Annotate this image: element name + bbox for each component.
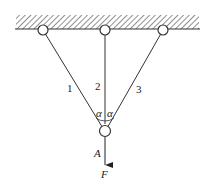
- angle-label-left: α: [96, 107, 102, 119]
- hinge-top-right: [158, 25, 168, 35]
- force-label-f: F: [100, 168, 108, 180]
- bar-2-label: 2: [95, 80, 101, 92]
- bar-3: [106, 30, 163, 130]
- hinge-top-middle: [100, 25, 110, 35]
- angle-label-right: α: [107, 107, 113, 119]
- joint-a: [100, 126, 111, 137]
- hinge-top-left: [38, 25, 48, 35]
- bar-1-label: 1: [67, 82, 73, 94]
- three-bar-truss-diagram: 1 2 3 α α A F: [0, 0, 212, 190]
- node-label-a: A: [93, 147, 101, 159]
- bar-3-label: 3: [136, 83, 142, 95]
